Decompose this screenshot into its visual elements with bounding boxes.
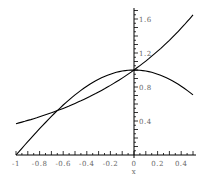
x-axis-label: x: [132, 168, 136, 176]
x-tick-label: -0.6: [55, 160, 71, 168]
x-tick-label: 0.4: [175, 160, 188, 168]
x-tick-label: -0.4: [79, 160, 95, 168]
curve-exp: [16, 15, 193, 124]
x-tick-label: 0.2: [151, 160, 164, 168]
chart: -1-0.8-0.6-0.4-0.200.20.4 0.40.81.21.6 x: [0, 0, 201, 187]
x-tick-label: -1: [12, 160, 20, 168]
y-tick-label: 1.6: [139, 16, 152, 24]
y-tick-label: 0.4: [139, 118, 152, 126]
x-tick-label: -0.2: [103, 160, 119, 168]
curve-cos: [16, 70, 193, 155]
curves: [16, 15, 193, 155]
x-tick-label: 0: [132, 160, 137, 168]
y-tick-label: 1.2: [139, 50, 152, 58]
axes: -1-0.8-0.6-0.4-0.200.20.4 0.40.81.21.6: [12, 8, 196, 168]
y-tick-label: 0.8: [139, 84, 152, 92]
x-tick-label: -0.8: [32, 160, 48, 168]
